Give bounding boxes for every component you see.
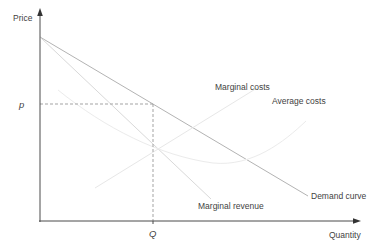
x-axis-label: Quantity: [329, 230, 361, 240]
diagram-canvas: Price Quantity p Q Marginal costs Averag…: [0, 0, 390, 248]
y-axis-arrowhead-icon: [37, 8, 43, 16]
curves-layer: [40, 37, 308, 199]
y-axis-label: Price: [13, 13, 33, 23]
marginal-revenue-label: Marginal revenue: [198, 201, 264, 211]
marginal-costs-label: Marginal costs: [215, 82, 270, 92]
economics-diagram: Price Quantity p Q Marginal costs Averag…: [0, 0, 390, 248]
demand-curve-label: Demand curve: [311, 191, 367, 201]
price-marker-label: p: [18, 99, 24, 110]
marginal-revenue-curve: [40, 37, 211, 199]
x-axis-arrowhead-icon: [353, 218, 361, 224]
marginal-costs-curve: [95, 88, 257, 188]
quantity-marker-label: Q: [149, 228, 157, 239]
average-costs-label: Average costs: [272, 96, 326, 106]
average-costs-curve: [58, 90, 306, 163]
demand-curve: [40, 37, 308, 196]
